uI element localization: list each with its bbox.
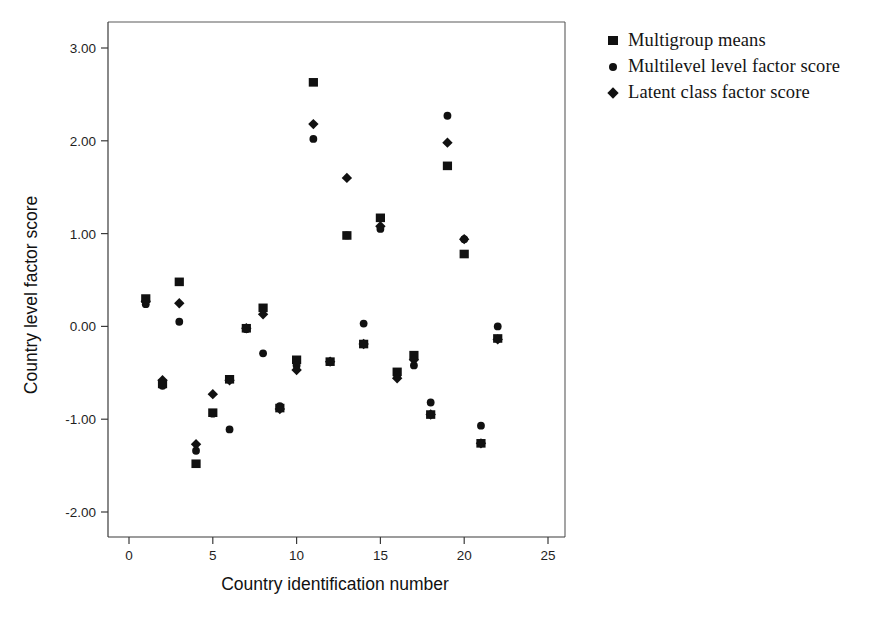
data-point [191,459,200,468]
y-axis-title: Country level factor score [21,196,41,394]
x-tick-label: 15 [373,548,388,563]
data-point [259,349,267,357]
data-point [191,439,201,449]
data-point [343,232,351,240]
data-point [226,426,234,434]
y-tick-label: 0.00 [70,319,96,334]
data-point [477,422,485,430]
data-point [309,78,318,87]
x-axis-title: Country identification number [221,574,449,594]
legend-item-label: Multilevel level factor score [628,56,840,77]
y-tick-label: 2.00 [70,134,96,149]
legend-item-label: Latent class factor score [628,82,810,103]
circle-marker-icon [604,58,622,76]
data-point [427,399,435,407]
y-tick-label: -2.00 [65,505,96,520]
data-point [444,112,452,120]
data-point [208,389,218,399]
data-point [442,137,452,147]
y-tick-label: 1.00 [70,227,96,242]
x-axis-ticks: 0510152025 [125,537,555,563]
data-point [443,162,452,171]
y-axis-ticks: 3.002.001.000.00-1.00-2.00 [65,41,108,520]
data-point [308,119,318,129]
series-square-markers [141,78,502,468]
data-point [459,234,469,244]
data-point [209,410,217,418]
x-tick-label: 20 [457,548,472,563]
data-points [141,78,503,468]
x-tick-label: 25 [540,548,555,563]
legend-item-multilevel-level-factor-score: Multilevel level factor score [604,54,866,79]
x-tick-label: 5 [209,548,217,563]
data-point [460,250,469,259]
legend-item-multigroup-means: Multigroup means [604,28,866,53]
data-point [175,318,183,326]
diamond-marker-icon [604,84,622,102]
data-point [309,135,317,143]
data-point [342,173,352,183]
data-point [494,323,502,331]
data-point [174,298,184,308]
y-tick-label: 3.00 [70,41,96,56]
data-point [175,278,184,287]
legend-item-latent-class-factor-score: Latent class factor score [604,80,866,105]
data-point [376,214,385,223]
y-tick-label: -1.00 [65,412,96,427]
scatter-plot-figure: 0510152025 3.002.001.000.00-1.00-2.00 Co… [0,0,870,621]
legend-item-label: Multigroup means [628,30,766,51]
x-tick-label: 0 [125,548,133,563]
data-point [360,320,368,328]
square-marker-icon [604,32,622,50]
legend: Multigroup means Multilevel level factor… [604,28,866,106]
x-tick-label: 10 [289,548,304,563]
